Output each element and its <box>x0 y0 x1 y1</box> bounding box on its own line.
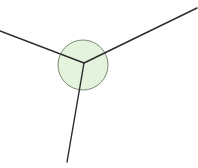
edge-upper-right-line <box>84 8 197 63</box>
junction-diagram <box>0 0 198 168</box>
diagram-canvas <box>0 0 198 168</box>
